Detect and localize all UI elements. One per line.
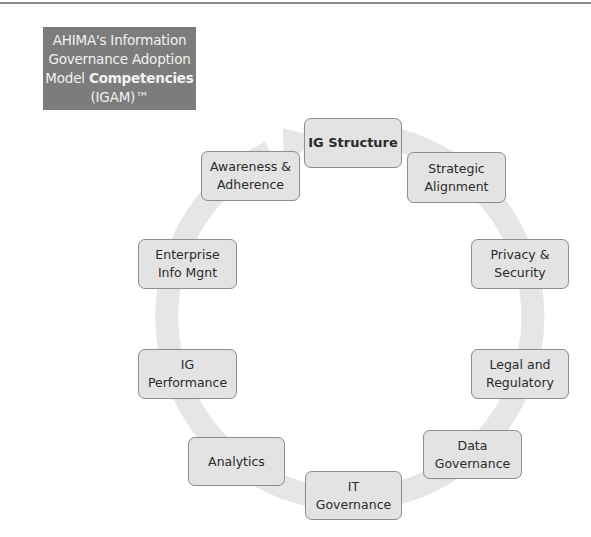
node-label-line2: Security <box>494 264 545 282</box>
node-data-governance: Data Governance <box>423 430 522 479</box>
node-ig-performance: IG Performance <box>138 349 237 399</box>
node-privacy-security: Privacy & Security <box>471 239 569 289</box>
node-label-line2: Adherence <box>217 176 284 194</box>
node-awareness-adherence: Awareness & Adherence <box>201 151 300 201</box>
node-label-line1: Analytics <box>208 453 265 471</box>
node-ig-structure: IG Structure <box>304 118 402 168</box>
node-label-line1: Enterprise <box>155 246 219 264</box>
node-label-line2: Governance <box>316 496 391 514</box>
node-label-line2: Regulatory <box>486 374 554 392</box>
node-label-line1: IG <box>181 356 194 374</box>
node-label-line1: Strategic <box>428 160 485 178</box>
node-label-line1: IT <box>348 478 359 496</box>
node-it-governance: IT Governance <box>305 471 402 520</box>
node-label-line1: Privacy & <box>491 246 550 264</box>
node-label-line2: Info Mgnt <box>158 264 217 282</box>
node-label-line2: Alignment <box>424 178 488 196</box>
node-label-line1: Awareness & <box>210 158 291 176</box>
node-analytics: Analytics <box>188 437 285 486</box>
node-label-line2: Governance <box>435 455 510 473</box>
node-legal-regulatory: Legal and Regulatory <box>471 349 569 399</box>
node-label-line1: Data <box>458 437 488 455</box>
node-strategic-alignment: Strategic Alignment <box>407 152 506 203</box>
node-label-line2: Performance <box>148 374 227 392</box>
node-enterprise-info-mgnt: Enterprise Info Mgnt <box>138 239 237 289</box>
node-label-line1: IG Structure <box>308 134 398 152</box>
node-label-line1: Legal and <box>490 356 551 374</box>
